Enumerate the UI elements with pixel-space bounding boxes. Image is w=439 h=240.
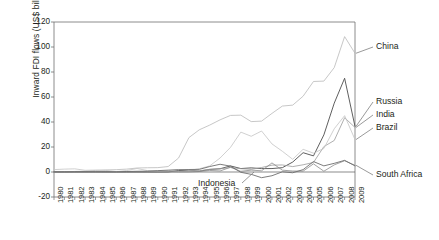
series-label-indonesia: Indonesia — [198, 179, 235, 188]
chart-figure: Inward FDI flows (US$ billion) 120100806… — [0, 0, 439, 240]
leader-line-south_africa — [356, 165, 373, 175]
plot-canvas — [0, 0, 439, 240]
series-line-russia — [54, 78, 355, 172]
series-label-brazil: Brazil — [376, 123, 398, 132]
leader-line-china — [356, 47, 373, 53]
series-label-russia: Russia — [376, 97, 402, 106]
series-line-south-africa — [54, 161, 355, 173]
leader-line-brazil — [356, 128, 373, 140]
series-label-india: India — [376, 110, 395, 119]
series-label-china: China — [376, 42, 398, 51]
series-label-south-africa: South Africa — [376, 170, 422, 179]
leader-line-india — [356, 115, 373, 127]
leader-line-russia — [356, 102, 373, 126]
